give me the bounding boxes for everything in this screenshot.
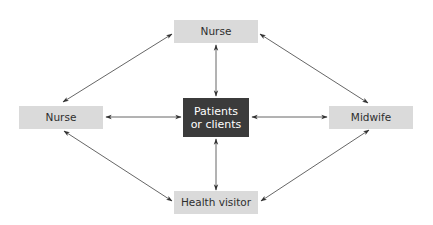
node-label: Nurse xyxy=(46,111,77,124)
node-label: Nurse xyxy=(201,25,232,38)
diagram-canvas: Nurse Nurse Patients or clients Midwife … xyxy=(0,0,433,225)
node-midwife-right: Midwife xyxy=(329,106,413,129)
node-nurse-left: Nurse xyxy=(19,106,103,129)
arrow-right-bottom xyxy=(261,130,369,201)
node-patients-center: Patients or clients xyxy=(183,98,249,137)
arrow-top-left xyxy=(63,34,172,102)
node-label: Health visitor xyxy=(181,196,251,209)
node-nurse-top: Nurse xyxy=(174,20,258,43)
node-label: Midwife xyxy=(351,111,391,124)
arrow-left-bottom xyxy=(64,131,172,201)
node-health-visitor-bottom: Health visitor xyxy=(174,191,258,214)
arrow-top-right xyxy=(260,34,368,103)
node-label: Patients or clients xyxy=(191,105,242,131)
